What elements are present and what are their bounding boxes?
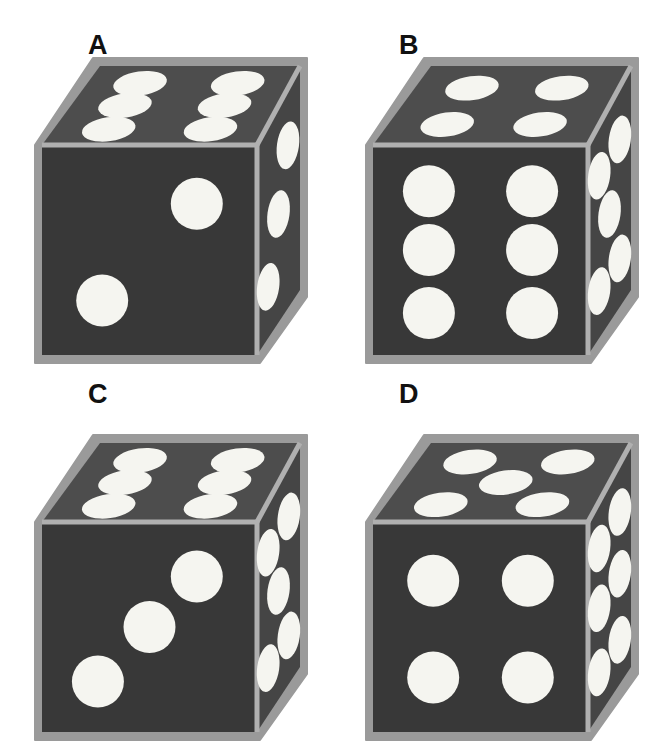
pip bbox=[171, 178, 223, 230]
pip bbox=[506, 165, 558, 217]
die-front-face bbox=[42, 145, 257, 355]
die-front-face bbox=[373, 522, 588, 732]
pip bbox=[124, 601, 176, 653]
pip bbox=[407, 651, 459, 703]
pip bbox=[72, 656, 124, 708]
die-cube-d bbox=[331, 377, 662, 754]
pip bbox=[403, 224, 455, 276]
pip bbox=[403, 165, 455, 217]
die-cube-c bbox=[0, 377, 331, 754]
pip bbox=[502, 555, 554, 607]
pip bbox=[506, 287, 558, 339]
dice-figure: ABCD bbox=[0, 0, 662, 754]
die-option-c[interactable]: C bbox=[0, 377, 331, 754]
die-option-b[interactable]: B bbox=[331, 0, 662, 377]
pip bbox=[76, 274, 128, 326]
die-option-a[interactable]: A bbox=[0, 0, 331, 377]
pip bbox=[407, 555, 459, 607]
pip bbox=[502, 651, 554, 703]
die-cube-a bbox=[0, 0, 331, 377]
die-cube-b bbox=[331, 0, 662, 377]
pip bbox=[403, 287, 455, 339]
die-option-d[interactable]: D bbox=[331, 377, 662, 754]
pip bbox=[506, 224, 558, 276]
pip bbox=[171, 551, 223, 603]
